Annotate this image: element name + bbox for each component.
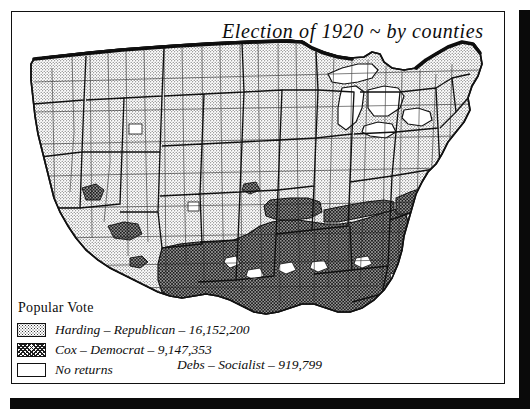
plate-shadow-bottom [10, 398, 530, 409]
legend-label-cox: Cox – Democrat – 9,147,353 [55, 342, 212, 358]
legend-heading: Popular Vote [18, 300, 317, 316]
plate-shadow-right [519, 10, 530, 409]
legend-swatch-no-returns [17, 363, 46, 377]
legend-label-debs: Debs – Socialist – 919,799 [177, 357, 322, 373]
map-card: Election of 1920 ~ by counties [0, 0, 516, 395]
legend-item-harding: Harding – Republican – 16,152,200 [17, 320, 317, 339]
election-map-figure: Election of 1920 ~ by counties [0, 0, 530, 409]
legend-swatch-harding [17, 323, 46, 337]
legend-label-no-returns: No returns [55, 362, 113, 378]
map-legend: Popular Vote Harding – Republican – 16,1… [17, 300, 317, 380]
legend-swatch-cox [17, 343, 46, 357]
legend-label-harding: Harding – Republican – 16,152,200 [55, 322, 249, 338]
